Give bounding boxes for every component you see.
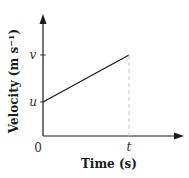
x-axis-title: Time (s) <box>81 157 137 171</box>
velocity-time-graph: v u 0 t Time (s) Velocity (m s−1) <box>0 0 189 178</box>
y-axis-title: Velocity (m s−1) <box>6 29 21 134</box>
y-axis-title-main: Velocity (m s <box>7 47 21 135</box>
y-axis-arrow-icon <box>40 14 47 24</box>
y-tick-label-u: u <box>29 95 37 109</box>
y-axis-title-sup: −1 <box>6 35 16 47</box>
x-tick-label-t: t <box>127 140 132 154</box>
x-axis-arrow-icon <box>174 133 184 140</box>
origin-label: 0 <box>34 141 42 155</box>
velocity-line <box>43 55 129 102</box>
y-axis-title-close: ) <box>7 29 21 35</box>
y-tick-label-v: v <box>30 48 37 62</box>
